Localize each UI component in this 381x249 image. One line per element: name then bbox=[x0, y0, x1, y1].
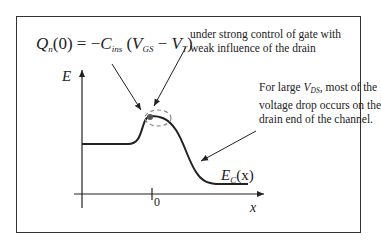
charge-formula: Qn(0) = −Cins (VGS − VT) bbox=[36, 34, 193, 54]
charge-symbol: Q bbox=[36, 34, 48, 53]
ec-argument: (x) bbox=[236, 167, 254, 183]
equals-sign: = − bbox=[73, 34, 101, 53]
ec-symbol: E bbox=[221, 167, 230, 183]
y-axis-label: E bbox=[62, 68, 71, 85]
capacitance-subscript: ins bbox=[112, 44, 123, 54]
drain-drop-line-2: voltage drop occurs on the bbox=[259, 98, 381, 112]
x-tick-zero-label: 0 bbox=[154, 195, 160, 210]
gate-note-pointer-arrow bbox=[154, 47, 186, 106]
gate-control-line-1: under strong control of gate with bbox=[190, 27, 341, 41]
gate-control-line-2: weak influence of the drain bbox=[190, 41, 341, 55]
formula-pointer-arrow bbox=[112, 64, 141, 110]
vds-subscript: DS bbox=[311, 86, 320, 95]
vgs-symbol: V bbox=[132, 34, 142, 53]
capacitance-symbol: C bbox=[100, 34, 111, 53]
vds-symbol: V bbox=[304, 81, 311, 93]
charge-argument: (0) bbox=[53, 34, 73, 53]
gate-control-note: under strong control of gate with weak i… bbox=[190, 27, 341, 55]
drain-drop-suffix: , most of the bbox=[320, 81, 378, 93]
curve-label: EC(x) bbox=[221, 167, 254, 185]
barrier-peak-dot bbox=[147, 114, 153, 120]
vgs-subscript: GS bbox=[142, 44, 153, 54]
drain-drop-line-3: drain end of the channel. bbox=[259, 112, 381, 126]
drain-drop-note: For large VDS, most of the voltage drop … bbox=[259, 80, 381, 126]
drain-drop-prefix: For large bbox=[259, 81, 304, 93]
drain-drop-line-1: For large VDS, most of the bbox=[259, 80, 381, 98]
x-axis-label: x bbox=[250, 200, 256, 216]
drain-note-pointer-arrow bbox=[201, 131, 256, 161]
minus-sign: − bbox=[153, 34, 171, 53]
open-paren: ( bbox=[122, 34, 132, 53]
vt-symbol: V bbox=[172, 34, 182, 53]
